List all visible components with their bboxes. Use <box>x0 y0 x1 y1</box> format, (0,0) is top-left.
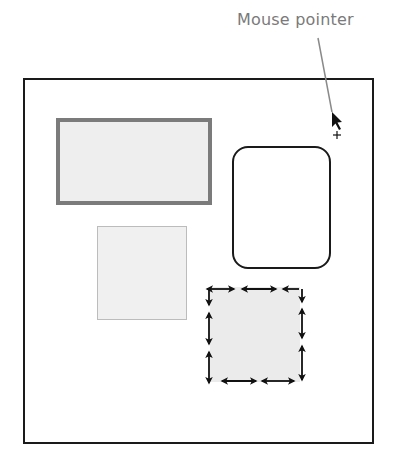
leader-line <box>318 38 332 112</box>
resize-handles[interactable] <box>207 289 302 383</box>
crosshair-icon <box>333 131 341 139</box>
arrow-pointer-icon <box>332 112 342 130</box>
overlay-graphics <box>0 0 399 463</box>
